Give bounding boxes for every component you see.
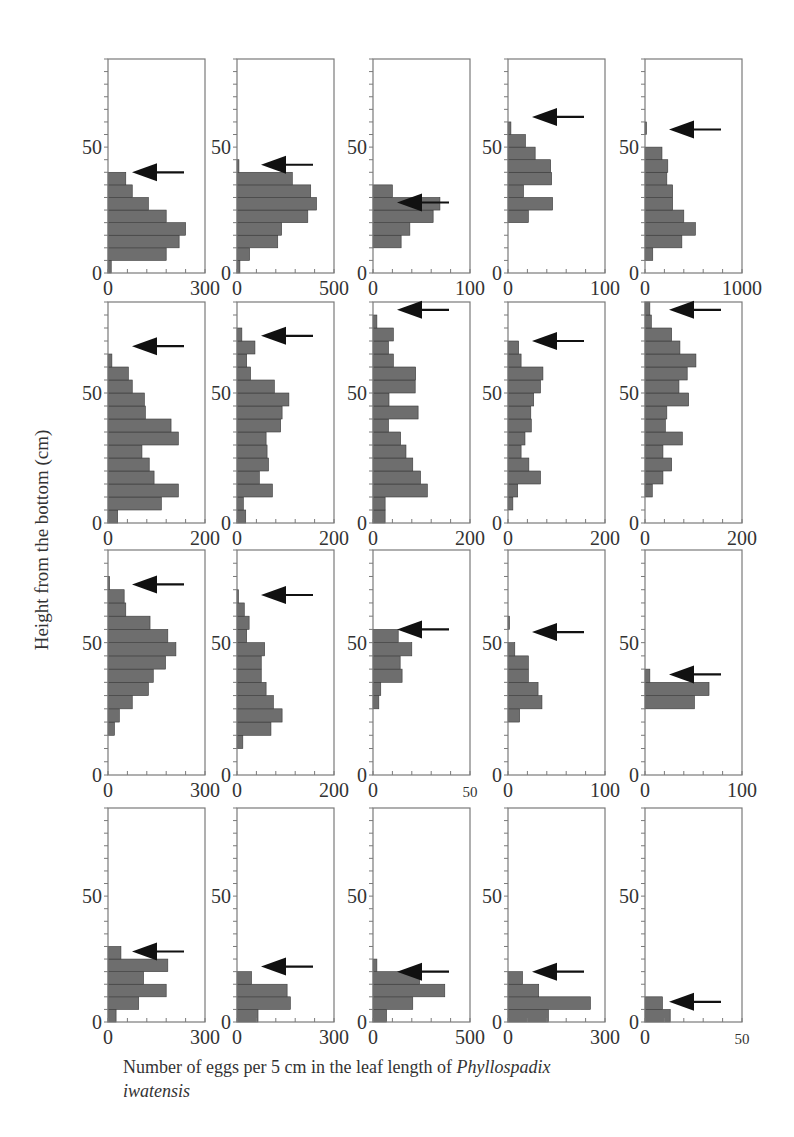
- y-tick-label: 50: [347, 136, 367, 158]
- histogram-bar: [108, 643, 176, 656]
- y-tick-label: 50: [82, 632, 102, 654]
- y-tick-label: 0: [92, 764, 102, 786]
- histogram-bar: [108, 197, 148, 210]
- y-tick-label: 0: [629, 512, 639, 534]
- histogram-bar: [237, 484, 272, 497]
- histogram-bar: [373, 380, 415, 393]
- leaf-height-arrow-icon: [261, 586, 313, 604]
- histogram-bar: [237, 669, 261, 682]
- y-tick-label: 50: [82, 382, 102, 404]
- x-tick-label-min: 0: [368, 277, 378, 299]
- leaf-height-arrow-icon: [261, 327, 313, 345]
- histogram-bar: [645, 997, 662, 1010]
- histogram-bar: [237, 972, 252, 985]
- histogram-bar: [237, 709, 282, 722]
- histogram-bar: [108, 172, 126, 185]
- histogram-bar: [508, 419, 531, 432]
- histogram-bar: [373, 393, 389, 406]
- y-tick-label: 0: [492, 262, 502, 284]
- histogram-bar: [373, 445, 406, 458]
- histogram-panel-r4-c5: 050050: [619, 808, 750, 1048]
- histogram-panel-r2-c2: 0500200: [211, 302, 349, 549]
- histogram-bar: [373, 235, 401, 248]
- y-tick-label: 50: [211, 136, 231, 158]
- histogram-bar: [508, 471, 540, 484]
- histogram-bar: [237, 471, 259, 484]
- x-tick-label-min: 0: [232, 1026, 242, 1048]
- histogram-bar: [373, 497, 385, 510]
- y-tick-label: 0: [629, 1011, 639, 1033]
- histogram-panel-r1-c1: 0500300: [82, 59, 220, 299]
- histogram-bar: [645, 172, 667, 185]
- y-tick-label: 50: [347, 382, 367, 404]
- histogram-bar: [237, 419, 281, 432]
- histogram-bar: [508, 172, 552, 185]
- histogram-bar: [645, 185, 673, 198]
- histogram-bar: [645, 1009, 670, 1022]
- histogram-bar: [373, 367, 416, 380]
- x-tick-label-max: 500: [319, 277, 349, 299]
- x-tick-label-max: 200: [319, 527, 349, 549]
- histogram-bar: [508, 972, 523, 985]
- histogram-bar: [508, 656, 528, 669]
- x-tick-label-max: 200: [319, 779, 349, 801]
- y-tick-label: 50: [482, 382, 502, 404]
- histogram-bar: [645, 419, 665, 432]
- histogram-bar: [645, 160, 668, 173]
- histogram-bar: [373, 354, 393, 367]
- histogram-bar: [373, 656, 400, 669]
- histogram-bar: [108, 590, 124, 603]
- histogram-panel-r3-c1: 0500300: [82, 550, 220, 801]
- y-tick-label: 50: [482, 885, 502, 907]
- histogram-bar: [373, 458, 413, 471]
- y-tick-label: 0: [221, 262, 231, 284]
- figure: 0500300050050005001000500100050010000500…: [0, 0, 794, 1137]
- x-tick-label-min: 0: [640, 779, 650, 801]
- histogram-bar: [508, 197, 553, 210]
- x-tick-label-max: 300: [190, 277, 220, 299]
- x-tick-label-max: 300: [319, 1026, 349, 1048]
- histogram-bar: [108, 458, 149, 471]
- histogram-bar: [645, 696, 694, 709]
- histogram-panel-r3-c3: 050050: [347, 550, 478, 801]
- histogram-bar: [508, 696, 542, 709]
- panel-frame: [645, 808, 742, 1022]
- histogram-bar: [108, 367, 128, 380]
- histogram-panel-r4-c3: 0500500: [347, 808, 485, 1048]
- histogram-bar: [373, 510, 385, 523]
- y-tick-label: 50: [82, 885, 102, 907]
- histogram-bar: [237, 643, 265, 656]
- x-tick-label-min: 0: [103, 277, 113, 299]
- leaf-height-arrow-icon: [132, 943, 184, 961]
- panel-frame: [645, 550, 742, 775]
- y-tick-label: 50: [211, 885, 231, 907]
- histogram-bar: [508, 458, 529, 471]
- x-tick-label-min: 0: [503, 1026, 513, 1048]
- histogram-bar: [645, 341, 680, 354]
- histogram-panel-r4-c1: 0500300: [82, 808, 220, 1048]
- histogram-bar: [373, 484, 427, 497]
- histogram-bar: [108, 722, 114, 735]
- histogram-bar: [108, 406, 145, 419]
- x-tick-label-min: 0: [232, 277, 242, 299]
- y-tick-label: 50: [482, 632, 502, 654]
- histogram-bar: [108, 484, 178, 497]
- y-tick-label: 50: [619, 382, 639, 404]
- histogram-bar: [237, 432, 266, 445]
- histogram-bar: [373, 997, 413, 1010]
- y-tick-label: 50: [211, 382, 231, 404]
- histogram-bar: [237, 629, 247, 642]
- leaf-height-arrow-icon: [132, 163, 184, 181]
- histogram-bar: [373, 210, 433, 223]
- histogram-bar: [508, 210, 528, 223]
- x-tick-label-max: 200: [727, 527, 757, 549]
- histogram-bar: [237, 603, 244, 616]
- y-tick-label: 0: [629, 262, 639, 284]
- histogram-bar: [508, 341, 519, 354]
- histogram-bar: [645, 380, 679, 393]
- histogram-bar: [508, 984, 539, 997]
- leaf-height-arrow-icon: [532, 963, 584, 981]
- histogram-bar: [645, 223, 695, 236]
- histogram-bar: [237, 497, 243, 510]
- histogram-bar: [237, 185, 311, 198]
